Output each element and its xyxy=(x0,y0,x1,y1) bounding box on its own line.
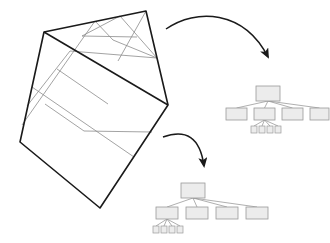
quadrant-upper-left-subdivision xyxy=(27,51,108,106)
ur-deep-split-v xyxy=(95,21,113,40)
lower-tree-child-nodes xyxy=(156,207,268,219)
arrow-to-lower-tree xyxy=(163,134,204,166)
lower-tree-child-node-1[interactable] xyxy=(186,207,208,219)
quadrant-lower-left-subdivision xyxy=(45,104,84,131)
lower-tree-grandchild-node-2[interactable] xyxy=(169,226,175,233)
lower-tree-grandchild-nodes xyxy=(153,226,183,233)
lower-edge-root-c3 xyxy=(193,198,257,207)
lower-tree-grandchild-node-0[interactable] xyxy=(153,226,159,233)
upper-tree-grandchild-node-2[interactable] xyxy=(267,126,273,133)
quadtree-diagram xyxy=(0,0,330,243)
lower-tree-child-node-0[interactable] xyxy=(156,207,178,219)
upper-edge-root-c3 xyxy=(268,101,320,108)
lower-tree-grandchild-node-1[interactable] xyxy=(161,226,167,233)
lower-edge-root-c0 xyxy=(167,198,193,207)
lower-edge-c0-g3 xyxy=(167,219,180,226)
quadrant-lower-right-subdivision xyxy=(84,131,152,132)
square-outline xyxy=(20,11,168,208)
lower-tree-root-node[interactable] xyxy=(181,183,205,198)
upper-tree-grandchild-node-1[interactable] xyxy=(259,126,265,133)
lower-edge-root-c1 xyxy=(193,198,197,207)
upper-quadtree xyxy=(226,86,329,133)
grid-line-main-h xyxy=(22,21,95,125)
upper-edge-root-c2 xyxy=(268,101,293,108)
upper-tree-child-nodes xyxy=(226,108,329,120)
lower-tree-child-node-2[interactable] xyxy=(216,207,238,219)
lower-quadtree xyxy=(153,183,268,233)
arrow-to-upper-tree xyxy=(166,16,268,57)
ur-deep-diag-a xyxy=(82,16,120,36)
upper-tree-grandchild-node-0[interactable] xyxy=(251,126,257,133)
lower-tree-child-node-3[interactable] xyxy=(246,207,268,219)
upper-tree-grandchild-node-3[interactable] xyxy=(275,126,281,133)
upper-edge-c1-g3 xyxy=(265,120,279,126)
upper-tree-child-node-1[interactable] xyxy=(254,108,275,120)
upper-tree-child-node-2[interactable] xyxy=(282,108,303,120)
upper-tree-edges xyxy=(237,101,320,126)
lower-edge-root-c2 xyxy=(193,198,227,207)
arrow-to-lower-tree-path xyxy=(163,134,204,166)
ul-split-h xyxy=(57,69,108,104)
arrow-to-upper-tree-path xyxy=(166,16,268,57)
lr-split-h xyxy=(84,131,152,132)
square-bold-diagonal xyxy=(44,32,168,105)
rotated-subdivided-square xyxy=(20,11,168,208)
diagram-canvas xyxy=(0,0,330,243)
upper-tree-root-node[interactable] xyxy=(256,86,280,101)
upper-tree-child-node-0[interactable] xyxy=(226,108,247,120)
grid-line-main-v xyxy=(32,87,134,157)
ur-deep-split-h xyxy=(82,36,137,37)
lower-tree-grandchild-node-3[interactable] xyxy=(177,226,183,233)
upper-tree-grandchild-nodes xyxy=(251,126,281,133)
upper-tree-child-node-3[interactable] xyxy=(310,108,329,120)
ll-split-h xyxy=(45,104,84,131)
upper-edge-root-c0 xyxy=(237,101,269,108)
